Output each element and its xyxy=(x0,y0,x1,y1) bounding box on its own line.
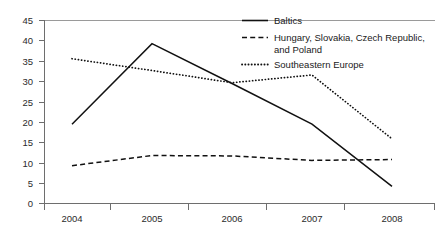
y-label-0: 0 xyxy=(28,198,33,209)
x-axis-ticks xyxy=(45,204,435,210)
series-line-dashed xyxy=(72,156,392,166)
line-chart: 45 40 35 30 25 20 15 10 5 0 2004 2005 20… xyxy=(0,0,446,236)
x-label-2008: 2008 xyxy=(381,213,402,224)
x-axis-labels: 2004 2005 2006 2007 2008 xyxy=(61,213,402,224)
y-label-15: 15 xyxy=(22,137,33,148)
y-label-5: 5 xyxy=(28,178,33,189)
series-line-dotted xyxy=(72,59,392,139)
legend-label-visegrad: Hungary, Slovakia, Czech Republic, xyxy=(274,32,425,43)
x-label-2006: 2006 xyxy=(221,213,242,224)
y-label-25: 25 xyxy=(22,97,33,108)
y-axis-labels: 45 40 35 30 25 20 15 10 5 0 xyxy=(22,15,33,209)
chart-canvas: 45 40 35 30 25 20 15 10 5 0 2004 2005 20… xyxy=(0,0,446,236)
legend-label-southeastern-europe: Southeastern Europe xyxy=(274,59,364,70)
y-label-35: 35 xyxy=(22,56,33,67)
y-label-45: 45 xyxy=(22,15,33,26)
legend-label-visegrad-line2: and Poland xyxy=(274,44,322,55)
x-label-2005: 2005 xyxy=(141,213,162,224)
y-label-30: 30 xyxy=(22,76,33,87)
x-label-2007: 2007 xyxy=(301,213,322,224)
x-label-2004: 2004 xyxy=(61,213,82,224)
y-label-40: 40 xyxy=(22,35,33,46)
chart-legend: Baltics Hungary, Slovakia, Czech Republi… xyxy=(242,15,425,70)
y-label-10: 10 xyxy=(22,158,33,169)
y-axis-ticks xyxy=(39,21,45,204)
y-label-20: 20 xyxy=(22,117,33,128)
legend-label-baltics: Baltics xyxy=(274,15,302,26)
